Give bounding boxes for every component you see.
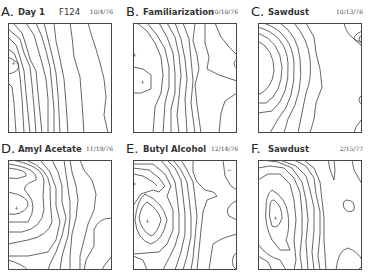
panel-e-header: E. Butyl Alcohol 12/14/76 xyxy=(126,140,238,156)
svg-text:+: + xyxy=(273,214,278,221)
panel-letter: E. xyxy=(126,141,138,156)
panel-title: Sawdust xyxy=(268,144,309,154)
contour-map-d: + xyxy=(8,160,112,270)
panel-date: 10/10/76 xyxy=(211,8,238,15)
panel-d: D. Amyl Acetate 11/19/76 + xyxy=(1,140,113,268)
svg-text:+: + xyxy=(133,51,137,58)
panel-letter: C. xyxy=(251,4,264,19)
panel-letter: D. xyxy=(1,141,15,156)
panel-date: 2/15/77 xyxy=(340,145,363,152)
panel-title: Day 1 xyxy=(18,7,45,17)
panel-b: B. Familiarization 10/10/76 + + xyxy=(126,3,238,131)
panel-title: Sawdust xyxy=(268,7,309,17)
contour-map-a: + xyxy=(8,23,112,133)
contour-map-b: + + xyxy=(133,23,237,133)
svg-text:+: + xyxy=(140,78,145,85)
panel-date: 11/19/76 xyxy=(86,145,113,152)
panel-c: C. Sawdust 10/13/76 xyxy=(251,3,363,131)
panel-letter: B. xyxy=(126,4,139,19)
panel-a: A. Day 1 F124 10/4/76 + xyxy=(1,3,113,131)
panel-e: E. Butyl Alcohol 12/14/76 + − xyxy=(126,140,238,268)
contour-map-c xyxy=(258,23,362,133)
panel-f-header: F. Sawdust 2/15/77 xyxy=(251,140,363,156)
contour-map-e: + − xyxy=(133,160,237,270)
contour-map-f: + xyxy=(258,160,362,270)
panel-a-header: A. Day 1 F124 10/4/76 xyxy=(1,3,113,19)
panel-date: 10/13/76 xyxy=(336,8,363,15)
svg-text:+: + xyxy=(14,204,19,211)
panel-date: 12/14/76 xyxy=(211,145,238,152)
panel-date: 10/4/76 xyxy=(90,8,113,15)
panel-b-header: B. Familiarization 10/10/76 xyxy=(126,3,238,19)
panel-letter: F. xyxy=(251,141,261,156)
panel-f: F. Sawdust 2/15/77 + xyxy=(251,140,363,268)
panel-subject-id: F124 xyxy=(59,7,80,17)
svg-text:+: + xyxy=(145,217,150,224)
panel-c-header: C. Sawdust 10/13/76 xyxy=(251,3,363,19)
svg-text:−: − xyxy=(227,166,232,173)
panel-d-header: D. Amyl Acetate 11/19/76 xyxy=(1,140,113,156)
panel-title: Familiarization xyxy=(143,7,214,17)
panel-title: Amyl Acetate xyxy=(18,144,82,154)
panel-letter: A. xyxy=(1,4,14,19)
panel-title: Butyl Alcohol xyxy=(143,144,206,154)
svg-text:+: + xyxy=(11,59,16,66)
